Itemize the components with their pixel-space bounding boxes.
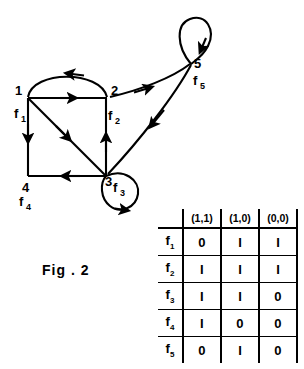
row-label-f3-sub: 3 [170, 296, 174, 305]
row-label-f3: f3 [158, 283, 183, 310]
table-row: f5 0 I 0 [158, 337, 297, 364]
node-1-function-sub: 1 [21, 114, 26, 124]
column-header-1-1: (1,1) [183, 209, 221, 228]
column-header-1-0: (1,0) [221, 209, 259, 228]
cell-f2-10: I [221, 256, 259, 283]
cell-f4-11: I [183, 310, 221, 337]
table-header-row: (1,1) (1,0) (0,0) [158, 209, 297, 228]
node-2-function-sub: 2 [115, 116, 120, 126]
node-4-label: 4 [22, 180, 30, 195]
node-5-function-sub: 5 [200, 81, 205, 91]
node-4-function: f [19, 194, 24, 209]
node-4-function-sub: 4 [26, 202, 31, 212]
cell-f4-00: 0 [259, 310, 297, 337]
figure-container: 1 2 3 4 5 f 1 f 2 f 3 f 4 f 5 Fig . 2 (1… [0, 0, 304, 369]
cell-f1-10: I [221, 228, 259, 256]
row-label-f1: f1 [158, 228, 183, 256]
cell-f3-00: 0 [259, 283, 297, 310]
edge-2-to-1-arrowhead [66, 73, 84, 75]
cell-f5-11: 0 [183, 337, 221, 364]
edge-5-to-3 [108, 65, 191, 174]
table-row: f3 I I 0 [158, 283, 297, 310]
table-row: f4 I 0 0 [158, 310, 297, 337]
node-1-function: f [14, 106, 19, 121]
cell-f1-11: 0 [183, 228, 221, 256]
row-label-f4-sub: 4 [170, 323, 174, 332]
edge-2-to-5 [110, 64, 190, 97]
node-2-function: f [108, 108, 113, 123]
table-row: f2 I I I [158, 256, 297, 283]
row-label-f1-sub: 1 [170, 242, 174, 251]
cell-f5-00: 0 [259, 337, 297, 364]
cell-f1-00: I [259, 228, 297, 256]
row-label-f4: f4 [158, 310, 183, 337]
node-5-label: 5 [194, 56, 201, 71]
cell-f2-00: I [259, 256, 297, 283]
edge-5-to-3-arrowhead [150, 110, 164, 127]
row-label-f2: f2 [158, 256, 183, 283]
figure-caption: Fig . 2 [42, 262, 89, 278]
node-3-function-sub: 3 [120, 188, 125, 198]
cell-f4-10: 0 [221, 310, 259, 337]
column-header-0-0: (0,0) [259, 209, 297, 228]
node-3-label: 3 [105, 174, 112, 189]
cell-f2-11: I [183, 256, 221, 283]
node-3-function: f [113, 180, 118, 195]
table-corner-cell [158, 209, 183, 228]
cell-f5-10: I [221, 337, 259, 364]
cell-f3-11: I [183, 283, 221, 310]
row-label-f5: f5 [158, 337, 183, 364]
edge-2-to-1-arc [28, 77, 107, 97]
node-1-label: 1 [15, 83, 22, 98]
row-label-f2-sub: 2 [170, 269, 174, 278]
node-2-label: 2 [111, 83, 118, 98]
node-5-function: f [193, 73, 198, 88]
cell-f3-10: I [221, 283, 259, 310]
row-label-f5-sub: 5 [170, 350, 174, 359]
edge-1-to-3-arrowhead [56, 126, 70, 140]
truth-table: (1,1) (1,0) (0,0) f1 0 I I f2 I I I f3 I… [158, 209, 298, 363]
node-function-labels: f 1 f 2 f 3 f 4 f 5 [14, 73, 205, 212]
table-row: f1 0 I I [158, 228, 297, 256]
